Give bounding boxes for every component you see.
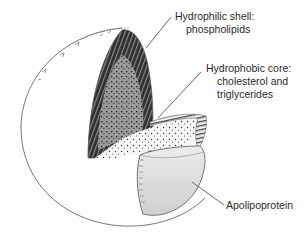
shell-label-line2: phospholipids (175, 23, 254, 36)
core-leader-line (158, 72, 201, 118)
protein-label: Apolipoprotein (226, 199, 293, 212)
apolipoprotein-block (137, 146, 205, 215)
shell-leader-line (146, 17, 171, 48)
core-label-line2: cholesterol and (206, 75, 291, 88)
shell-label-line1: Hydrophilic shell: (175, 10, 254, 23)
core-label: Hydrophobic core: cholesterol and trigly… (206, 62, 291, 101)
protein-label-line1: Apolipoprotein (226, 199, 293, 212)
protein-leader-line (192, 182, 224, 205)
core-label-line3: triglycerides (206, 88, 291, 101)
lipoprotein-illustration (0, 0, 306, 251)
shell-label: Hydrophilic shell: phospholipids (175, 10, 254, 36)
lipoprotein-diagram: Hydrophilic shell: phospholipids Hydroph… (0, 0, 306, 251)
core-label-line1: Hydrophobic core: (206, 62, 291, 75)
